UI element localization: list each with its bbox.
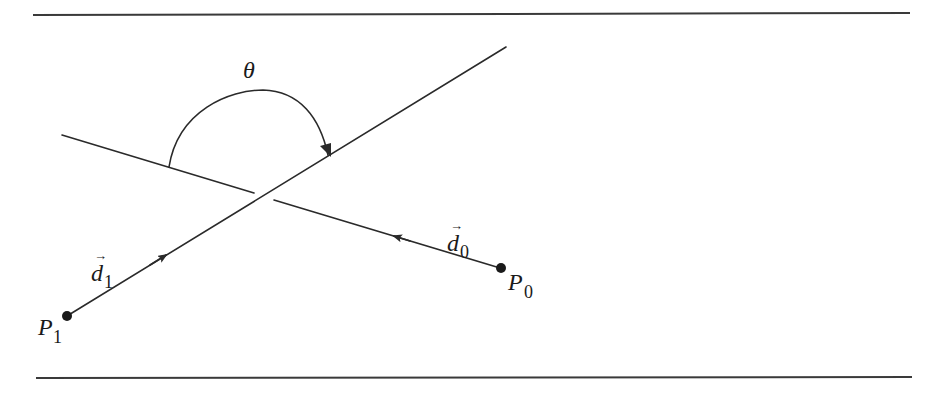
p1-label: P bbox=[37, 314, 53, 340]
d0-subscript: 0 bbox=[460, 242, 469, 262]
ray-angle-diagram: θ P 1 P 0 → d 1 → d 0 bbox=[0, 0, 929, 396]
point-p1-dot bbox=[62, 311, 72, 321]
d0-arrow-icon bbox=[394, 236, 410, 241]
theta-label: θ bbox=[243, 57, 255, 83]
ray-d0-line-far bbox=[62, 135, 254, 193]
d1-label: d bbox=[91, 260, 104, 286]
bottom-rule bbox=[36, 377, 912, 378]
d1-subscript: 1 bbox=[104, 272, 113, 292]
d1-arrow-icon bbox=[150, 255, 166, 265]
point-p0-dot bbox=[496, 263, 506, 273]
ray-d1-line bbox=[67, 47, 506, 316]
theta-arc bbox=[169, 90, 328, 167]
p0-label: P bbox=[507, 269, 523, 295]
p0-subscript: 0 bbox=[524, 282, 533, 302]
top-rule bbox=[33, 13, 910, 15]
p1-subscript: 1 bbox=[53, 327, 62, 347]
d0-label: d bbox=[447, 230, 460, 256]
theta-arrowhead-icon bbox=[320, 143, 331, 157]
